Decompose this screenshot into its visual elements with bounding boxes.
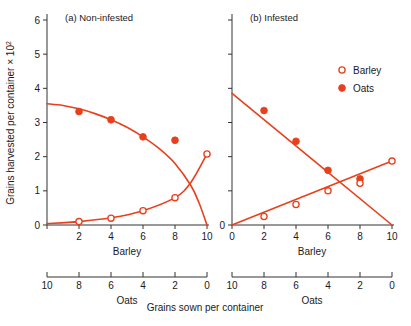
datapoint-b-oats-4 bbox=[293, 138, 300, 145]
legend-filled-circle-icon bbox=[339, 85, 346, 92]
secondary-tick-label-b-2: 2 bbox=[357, 280, 363, 291]
datapoint-a-barley-10 bbox=[204, 151, 210, 157]
secondary-axis-title-b: Oats bbox=[301, 295, 322, 306]
datapoint-b-barley-2 bbox=[261, 213, 267, 219]
bottom-caption: Grains sown per container bbox=[147, 302, 264, 313]
curve-a-oats bbox=[47, 104, 207, 225]
datapoint-b-barley-8 bbox=[357, 180, 363, 186]
datapoint-a-barley-4 bbox=[108, 215, 114, 221]
x-tick-label-a-4: 4 bbox=[108, 231, 114, 242]
secondary-tick-label-a-6: 6 bbox=[108, 280, 114, 291]
datapoint-a-oats-2 bbox=[76, 108, 83, 115]
datapoint-b-oats-2 bbox=[261, 107, 268, 114]
replacement-series-figure: (a) Non-infested0123456246810Barley10864… bbox=[0, 0, 411, 326]
panel-title-a: (a) Non-infested bbox=[65, 12, 133, 23]
secondary-tick-label-b-4: 4 bbox=[325, 280, 331, 291]
x-tick-label-b-8: 8 bbox=[357, 231, 363, 242]
x-axis-title-a: Barley bbox=[113, 246, 141, 257]
y-tick-label-a-1: 1 bbox=[34, 185, 40, 196]
secondary-tick-label-a-4: 4 bbox=[140, 280, 146, 291]
secondary-axis-title-a: Oats bbox=[116, 295, 137, 306]
x-tick-label-a-8: 8 bbox=[172, 231, 178, 242]
secondary-tick-label-b-6: 6 bbox=[293, 280, 299, 291]
secondary-tick-label-a-0: 0 bbox=[204, 280, 210, 291]
x-tick-label-b-0: 0 bbox=[229, 231, 235, 242]
datapoint-a-barley-8 bbox=[172, 195, 178, 201]
y-tick-label-a-0: 0 bbox=[34, 220, 40, 231]
legend-label-oats: Oats bbox=[353, 83, 374, 94]
datapoint-a-oats-4 bbox=[108, 116, 115, 123]
curve-a-barley bbox=[47, 154, 207, 224]
y-tick-label-a-3: 3 bbox=[34, 117, 40, 128]
curve-b-oats bbox=[232, 93, 392, 225]
secondary-tick-label-b-10: 10 bbox=[226, 280, 238, 291]
x-axis-title-b: Barley bbox=[298, 246, 326, 257]
panel-title-b: (b) Infested bbox=[250, 12, 298, 23]
curve-b-barley bbox=[232, 161, 392, 225]
y-tick-label-b-0: 0 bbox=[219, 220, 225, 231]
y-axis-label: Grains harvested per container × 102 bbox=[5, 41, 17, 205]
secondary-tick-label-a-2: 2 bbox=[172, 280, 178, 291]
x-tick-label-b-10: 10 bbox=[386, 231, 398, 242]
x-tick-label-b-2: 2 bbox=[261, 231, 267, 242]
y-tick-label-a-2: 2 bbox=[34, 151, 40, 162]
datapoint-a-oats-6 bbox=[140, 133, 147, 140]
y-tick-label-a-5: 5 bbox=[34, 49, 40, 60]
legend-label-barley: Barley bbox=[353, 65, 381, 76]
chart-canvas: (a) Non-infested0123456246810Barley10864… bbox=[0, 0, 411, 326]
secondary-tick-label-a-8: 8 bbox=[76, 280, 82, 291]
datapoint-a-oats-8 bbox=[172, 137, 179, 144]
y-tick-label-a-4: 4 bbox=[34, 83, 40, 94]
svg-text:Grains harvested per container: Grains harvested per container × 102 bbox=[5, 41, 17, 205]
datapoint-a-barley-6 bbox=[140, 208, 146, 214]
datapoint-b-barley-10 bbox=[389, 158, 395, 164]
x-tick-label-b-4: 4 bbox=[293, 231, 299, 242]
datapoint-b-oats-6 bbox=[325, 167, 332, 174]
x-tick-label-a-6: 6 bbox=[140, 231, 146, 242]
legend-open-circle-icon bbox=[339, 67, 345, 73]
x-tick-label-a-10: 10 bbox=[201, 231, 213, 242]
datapoint-a-barley-2 bbox=[76, 218, 82, 224]
datapoint-b-barley-6 bbox=[325, 188, 331, 194]
datapoint-b-barley-4 bbox=[293, 201, 299, 207]
secondary-tick-label-b-0: 0 bbox=[389, 280, 395, 291]
x-tick-label-a-2: 2 bbox=[76, 231, 82, 242]
y-tick-label-a-6: 6 bbox=[34, 15, 40, 26]
x-tick-label-b-6: 6 bbox=[325, 231, 331, 242]
secondary-tick-label-a-10: 10 bbox=[41, 280, 53, 291]
secondary-tick-label-b-8: 8 bbox=[261, 280, 267, 291]
